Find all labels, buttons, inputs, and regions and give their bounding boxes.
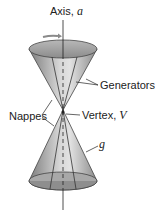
- axis-label: Axis, a: [50, 4, 83, 18]
- generators-annotation: Generators: [76, 79, 155, 91]
- rotation-arrow-icon: [43, 34, 62, 39]
- vertex-annotation: Vertex, V: [66, 108, 128, 122]
- generators-label: Generators: [100, 79, 155, 91]
- double-napped-cone-diagram: Axis, a Generators Nappes Vertex, V g: [0, 0, 155, 220]
- vertex-label: Vertex, V: [82, 108, 128, 122]
- nappes-label: Nappes: [9, 110, 47, 122]
- nappes-annotation: Nappes: [9, 100, 54, 126]
- generator-g-label: g: [99, 137, 105, 151]
- generator-g-annotation: g: [86, 137, 105, 152]
- vertex-point: [62, 111, 65, 114]
